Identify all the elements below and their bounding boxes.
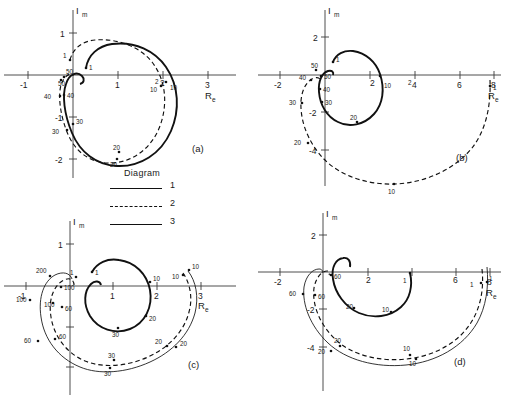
svg-text:20: 20 — [346, 303, 354, 310]
markers-b: 1 1 10 10 20 20 30 30 40 40 50 50 2 — [289, 56, 497, 195]
y-axis-label-b: I — [328, 5, 331, 16]
svg-text:-2: -2 — [274, 277, 282, 287]
svg-text:10: 10 — [384, 82, 392, 89]
svg-text:30: 30 — [108, 352, 116, 359]
svg-text:30: 30 — [325, 99, 333, 106]
svg-text:10: 10 — [382, 306, 390, 313]
panel-label-b: (b) — [456, 152, 468, 163]
svg-text:50: 50 — [324, 73, 332, 80]
svg-text:30: 30 — [76, 118, 84, 125]
tick-labels-d: -2 2 6 8 2 -2 -4 — [274, 231, 492, 353]
svg-text:60: 60 — [318, 293, 326, 300]
svg-text:1: 1 — [115, 80, 120, 90]
svg-text:6: 6 — [457, 80, 462, 90]
svg-text:20: 20 — [180, 340, 188, 347]
svg-text:60: 60 — [65, 305, 73, 312]
svg-text:-2: -2 — [55, 155, 63, 165]
y-axis-label-sub-a: m — [82, 11, 87, 18]
svg-text:-4: -4 — [309, 146, 317, 156]
svg-text:1: 1 — [60, 29, 65, 39]
y-axis-label-c: I — [73, 216, 76, 227]
svg-text:20: 20 — [350, 114, 358, 121]
curve-a-1 — [64, 43, 177, 166]
x-axis-label-sub-b: e — [495, 96, 499, 103]
svg-text:2: 2 — [155, 78, 159, 85]
svg-text:100: 100 — [16, 296, 27, 303]
svg-text:10: 10 — [403, 345, 411, 352]
panel-b: I m R e -2 2 4 6 8 2 -2 -4 1 1 10 10 20 … — [258, 0, 516, 199]
svg-text:20: 20 — [110, 161, 118, 168]
svg-text:10: 10 — [192, 263, 200, 270]
y-axis-label-sub-d: m — [332, 214, 337, 221]
svg-text:10: 10 — [170, 84, 178, 91]
svg-text:1: 1 — [70, 269, 74, 276]
svg-text:20: 20 — [318, 348, 326, 355]
markers-d: 1 1 1 10 10 10 20 20 20 60 60 60 — [289, 272, 493, 367]
svg-text:40: 40 — [323, 86, 331, 93]
svg-text:40: 40 — [67, 92, 75, 99]
legend-swatch-solid — [110, 188, 162, 189]
svg-text:50: 50 — [58, 80, 66, 87]
svg-text:2: 2 — [408, 79, 412, 86]
svg-text:10: 10 — [150, 86, 158, 93]
markers-c: 1 1 10 10 10 20 20 20 30 30 30 60 60 60 … — [16, 263, 200, 377]
svg-text:3: 3 — [198, 291, 203, 301]
svg-text:1: 1 — [89, 64, 93, 71]
svg-text:100: 100 — [64, 284, 75, 291]
svg-text:1: 1 — [489, 275, 493, 282]
panel-c: I m R e -1 1 2 3 1 1 1 10 10 10 20 20 20… — [0, 199, 258, 398]
svg-text:30: 30 — [52, 128, 60, 135]
svg-text:3: 3 — [205, 80, 210, 90]
curve-b-2 — [301, 78, 490, 184]
svg-text:2: 2 — [154, 291, 159, 301]
svg-text:-1: -1 — [55, 113, 63, 123]
curve-d-1 — [333, 258, 412, 317]
svg-text:50: 50 — [311, 62, 319, 69]
svg-text:2: 2 — [311, 231, 316, 241]
svg-text:2: 2 — [366, 275, 371, 285]
svg-text:10: 10 — [409, 360, 417, 367]
svg-text:20: 20 — [294, 139, 302, 146]
svg-text:40: 40 — [44, 93, 52, 100]
svg-text:1: 1 — [403, 277, 407, 284]
y-axis-label-d: I — [326, 208, 329, 219]
panel-label-d: (d) — [454, 356, 466, 367]
svg-text:20: 20 — [113, 144, 121, 151]
x-axis-label-sub-a: e — [212, 96, 216, 103]
svg-text:1: 1 — [470, 281, 474, 288]
svg-text:10: 10 — [388, 188, 396, 195]
y-axis-label-sub-b: m — [334, 11, 339, 18]
svg-text:1: 1 — [63, 52, 67, 59]
svg-text:50: 50 — [66, 68, 74, 75]
svg-text:60: 60 — [59, 333, 67, 340]
svg-text:-2: -2 — [309, 108, 317, 118]
y-axis-label-a: I — [76, 5, 79, 16]
panel-label-a: (a) — [192, 143, 204, 154]
svg-text:30: 30 — [289, 99, 297, 106]
y-axis-label-sub-c: m — [79, 222, 84, 229]
svg-text:1: 1 — [493, 84, 497, 91]
svg-text:2: 2 — [370, 78, 375, 88]
svg-text:1: 1 — [110, 291, 115, 301]
svg-text:100: 100 — [44, 301, 55, 308]
svg-text:-2: -2 — [274, 80, 282, 90]
legend-item-1: 1 — [96, 182, 216, 195]
svg-text:-4: -4 — [307, 343, 315, 353]
svg-text:60: 60 — [334, 273, 342, 280]
svg-text:6: 6 — [453, 275, 458, 285]
svg-text:1: 1 — [58, 240, 63, 250]
svg-text:4: 4 — [412, 80, 417, 90]
svg-text:1: 1 — [95, 269, 99, 276]
legend-title: Diagram — [124, 168, 160, 178]
svg-text:10: 10 — [153, 275, 161, 282]
svg-text:1: 1 — [336, 56, 340, 63]
x-axis-label-sub-d: e — [493, 293, 497, 300]
tick-labels-b: -2 2 4 6 8 2 -2 -4 — [274, 33, 496, 156]
panel-label-c: (c) — [188, 359, 199, 370]
svg-text:40: 40 — [299, 74, 307, 81]
panel-d: I m R e -2 2 6 8 2 -2 -4 1 1 1 10 10 10 … — [258, 199, 516, 398]
x-axis-label-c: R — [198, 300, 205, 311]
svg-text:60: 60 — [24, 337, 32, 344]
svg-text:60: 60 — [289, 290, 297, 297]
svg-text:10: 10 — [172, 273, 180, 280]
